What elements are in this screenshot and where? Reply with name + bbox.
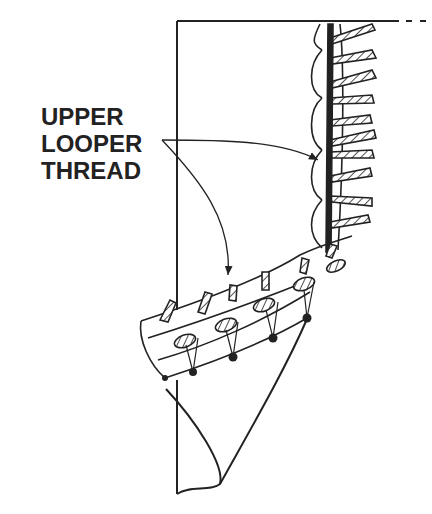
stitch-diagram xyxy=(0,0,432,514)
callout-arrows xyxy=(162,140,318,275)
vertical-seam-stitches xyxy=(312,24,377,252)
callout-arrow-seam xyxy=(162,140,318,160)
callout-arrow-hem xyxy=(162,140,228,275)
curved-hem-stitches xyxy=(141,236,352,381)
